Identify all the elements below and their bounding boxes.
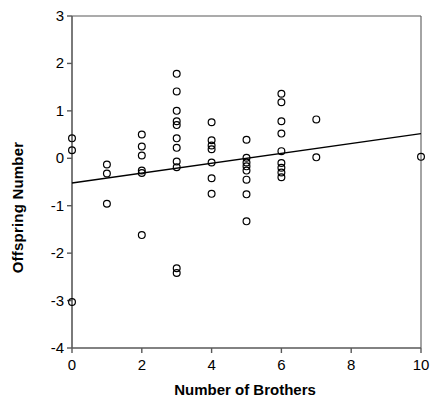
data-point-marker bbox=[278, 130, 285, 137]
x-axis-label: Number of Brothers bbox=[55, 381, 435, 398]
y-tick-label: -2 bbox=[42, 244, 64, 261]
data-point-marker bbox=[104, 170, 111, 177]
data-point-marker bbox=[243, 176, 250, 183]
data-point-marker bbox=[243, 136, 250, 143]
y-tick-label: -4 bbox=[42, 339, 64, 356]
data-point-marker bbox=[208, 190, 215, 197]
data-point-marker bbox=[138, 232, 145, 239]
scatter-plot-figure: Offspring Number Number of Brothers -4-3… bbox=[0, 0, 447, 415]
data-point-marker bbox=[104, 161, 111, 168]
data-point-marker bbox=[173, 270, 180, 277]
y-tick-label: 2 bbox=[42, 54, 64, 71]
data-point-marker bbox=[278, 90, 285, 97]
data-point-marker bbox=[243, 167, 250, 174]
data-point-marker bbox=[173, 88, 180, 95]
data-point-marker bbox=[243, 191, 250, 198]
x-tick-label: 6 bbox=[266, 356, 296, 373]
x-tick-label: 8 bbox=[336, 356, 366, 373]
x-tick-label: 10 bbox=[406, 356, 436, 373]
trendline-group bbox=[72, 134, 421, 183]
y-tick-label: -1 bbox=[42, 197, 64, 214]
x-tick-label: 2 bbox=[127, 356, 157, 373]
y-tick-label: -3 bbox=[42, 292, 64, 309]
data-point-marker bbox=[104, 200, 111, 207]
y-tick-label: 3 bbox=[42, 7, 64, 24]
data-point-marker bbox=[313, 154, 320, 161]
data-point-marker bbox=[313, 116, 320, 123]
y-tick-label: 0 bbox=[42, 149, 64, 166]
y-axis-label: Offspring Number bbox=[2, 0, 32, 415]
data-point-marker bbox=[173, 70, 180, 77]
axes-group bbox=[72, 16, 421, 348]
data-point-marker bbox=[208, 119, 215, 126]
data-point-marker bbox=[208, 175, 215, 182]
tick-marks-group bbox=[67, 16, 421, 353]
plot-canvas bbox=[0, 0, 447, 415]
data-points-group bbox=[69, 70, 425, 305]
x-tick-label: 4 bbox=[197, 356, 227, 373]
data-point-marker bbox=[173, 144, 180, 151]
x-tick-label: 0 bbox=[57, 356, 87, 373]
data-point-marker bbox=[138, 143, 145, 150]
data-point-marker bbox=[278, 174, 285, 181]
y-tick-label: 1 bbox=[42, 102, 64, 119]
data-point-marker bbox=[173, 135, 180, 142]
data-point-marker bbox=[138, 152, 145, 159]
data-point-marker bbox=[173, 107, 180, 114]
data-point-marker bbox=[138, 131, 145, 138]
data-point-marker bbox=[278, 118, 285, 125]
regression-trendline bbox=[72, 134, 421, 183]
data-point-marker bbox=[278, 99, 285, 106]
y-axis-label-container: Offspring Number bbox=[2, 0, 32, 415]
data-point-marker bbox=[243, 218, 250, 225]
